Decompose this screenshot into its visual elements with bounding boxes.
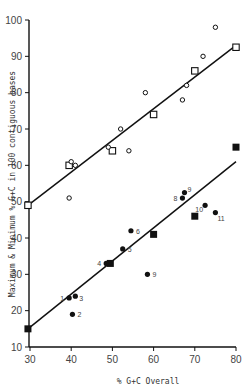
point-label: 4: [97, 260, 101, 267]
open-circle-marker: [73, 163, 77, 167]
x-tick-label: 70: [189, 354, 201, 365]
open-circle-marker: [106, 145, 110, 149]
filled-circle-marker: [120, 246, 125, 251]
scatter-chart: 102030405060708090100304050607080 123456…: [0, 0, 250, 392]
filled-circle-marker: [180, 195, 185, 200]
filled-circle-marker: [128, 228, 133, 233]
x-tick-label: 50: [107, 354, 119, 365]
y-tick-label: 10: [11, 342, 23, 353]
regression-line: [28, 45, 236, 205]
open-square-marker: [233, 44, 239, 50]
filled-circle-marker: [104, 261, 109, 266]
y-tick-label: 100: [5, 15, 22, 26]
y-tick-label: 90: [11, 51, 23, 62]
regression-lines: [28, 45, 236, 328]
open-circle-marker: [201, 54, 205, 58]
y-axis-title: Maximum & Minimum % G+C in 100 contiguou…: [8, 71, 17, 298]
point-label: 8: [174, 195, 178, 202]
data-points: 1234569891011: [24, 25, 239, 332]
point-label: 10: [195, 206, 203, 213]
point-label: 2: [77, 311, 81, 318]
x-tick-label: 30: [24, 354, 36, 365]
open-circle-marker: [127, 149, 131, 153]
x-tick-label: 80: [230, 354, 242, 365]
point-label: 1: [60, 295, 64, 302]
open-square-marker: [192, 68, 198, 74]
open-circle-marker: [118, 127, 122, 131]
filled-circle-marker: [73, 294, 78, 299]
open-square-marker: [25, 202, 31, 208]
filled-square-marker: [191, 213, 198, 220]
point-label: 3: [79, 295, 83, 302]
point-label: 9: [188, 186, 192, 193]
point-label: 11: [217, 215, 224, 222]
filled-square-marker: [150, 231, 157, 238]
regression-line: [28, 162, 236, 329]
point-label: 5: [128, 246, 132, 253]
filled-circle-marker: [182, 190, 187, 195]
x-tick-label: 40: [66, 354, 78, 365]
x-tick-label: 60: [148, 354, 160, 365]
x-axis-title: % G+C Overall: [117, 377, 180, 386]
filled-circle-marker: [203, 203, 208, 208]
open-circle-marker: [213, 25, 217, 29]
open-circle-marker: [143, 90, 147, 94]
y-tick-label: 20: [11, 305, 23, 316]
point-label: 9: [152, 271, 156, 278]
filled-circle-marker: [70, 312, 75, 317]
point-label: 6: [136, 228, 140, 235]
open-circle-marker: [67, 196, 71, 200]
axis-ticks: 102030405060708090100304050607080: [5, 15, 242, 366]
filled-square-marker: [24, 325, 31, 332]
filled-square-marker: [233, 144, 240, 151]
open-square-marker: [150, 111, 156, 117]
open-circle-marker: [184, 83, 188, 87]
open-circle-marker: [180, 98, 184, 102]
filled-circle-marker: [67, 295, 72, 300]
open-circle-marker: [69, 160, 73, 164]
filled-circle-marker: [145, 272, 150, 277]
